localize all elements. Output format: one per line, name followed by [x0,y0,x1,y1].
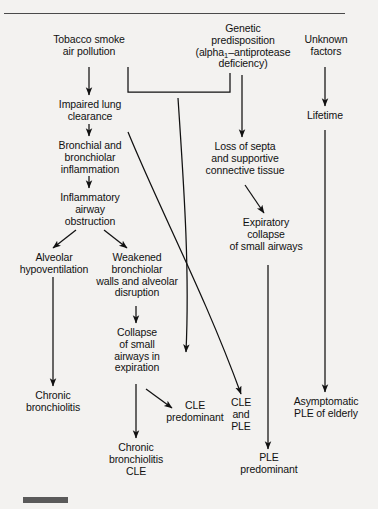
bottom-caption-bar [23,497,68,503]
genetic-line-3-suffix: –antiprotease [228,46,290,58]
node-genetic-predisposition: Geneticpredisposition(alpha1–antiproteas… [182,23,304,70]
node-chronic-bronchiolitis-cle: Chronic bronchiolitis CLE [94,442,178,477]
node-loss-of-septa: Loss of septa and supportive connective … [192,141,298,176]
edge-bracket-curve-left [178,98,187,352]
node-impaired-lung-clearance: Impaired lung clearance [34,99,146,123]
node-cle-and-ple: CLE and PLE [225,397,257,432]
node-chronic-bronchiolitis: Chronic bronchiolitis [10,390,96,414]
edge-inflammatory-to-weakened [104,230,127,248]
genetic-line-2: predisposition [211,34,274,46]
node-lifetime: Lifetime [296,110,354,122]
node-weakened-bronchiolar-walls: Weakened bronchiolar walls and alveolar … [86,252,188,299]
flowchart-figure: Tobacco smoke air pollution Geneticpredi… [0,0,378,509]
node-collapse-small-airways: Collapse of small airways in expiration [102,327,172,374]
node-expiratory-collapse: Expiratory collapse of small airways [210,217,322,252]
node-ple-predominant: PLE predominant [232,452,306,476]
node-inflammatory-obstruction: Inflammatory airway obstruction [34,192,146,227]
edge-inflammatory-to-alveolar [53,230,76,248]
top-divider-rule [4,13,345,14]
node-asymptomatic-ple: Asymptomatic PLE of elderly [283,396,369,420]
edge-bracket-connector [128,67,230,92]
node-unknown-factors: Unknown factors [290,34,362,58]
edge-loss-septa-to-expiratory [245,185,264,213]
genetic-subscript-1: 1 [224,51,228,60]
genetic-line-3-prefix: (alpha [195,46,224,58]
node-bronchial-inflammation: Bronchial and bronchiolar inflammation [34,140,146,175]
node-tobacco-smoke: Tobacco smoke air pollution [28,34,150,58]
genetic-line-1: Genetic [225,22,261,34]
node-cle-predominant: CLE predominant [155,400,235,424]
